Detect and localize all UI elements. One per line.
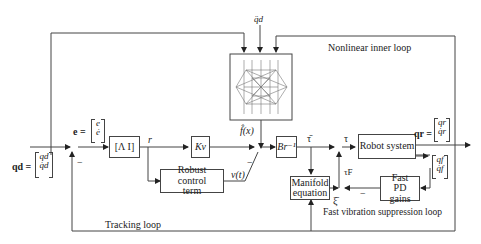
lambda-i-block[interactable]: [Λ I]	[109, 136, 140, 158]
v-t-label: v(t)	[231, 170, 245, 180]
qd-vector: qd q̇d	[35, 152, 53, 178]
fast-vibration-loop-label: Fast vibration suppression loop	[323, 208, 442, 218]
tau-bar-label: τ̄	[307, 134, 311, 144]
e-vector: e ė	[91, 119, 105, 143]
nonlinear-inner-loop-label: Nonlinear inner loop	[328, 43, 411, 53]
tau-label: τ	[344, 134, 348, 144]
minus-sign-tracking: −	[77, 158, 83, 168]
kv-block[interactable]: Kv	[191, 136, 210, 158]
fast-pd-gains-block[interactable]: Fast PD gains	[380, 176, 420, 201]
minus-sign-robust: −	[247, 158, 253, 168]
e-vector-label: e =	[73, 127, 86, 137]
tau-f-label: τF	[344, 168, 353, 177]
xi-bar-label: ξ̄	[333, 196, 337, 206]
qr-vector: qr q̇r	[434, 118, 450, 142]
minus-sign-pd: −	[360, 189, 366, 199]
qdd-desired-label: q̈d	[254, 15, 263, 24]
robot-system-block[interactable]: Robot system	[358, 134, 416, 159]
qd-vector-label: qd =	[12, 162, 31, 172]
f-hat-label: f̂(x)	[240, 126, 254, 136]
manifold-equation-block[interactable]: Manifold equation	[290, 176, 330, 200]
r-signal-label: r	[148, 135, 152, 145]
tracking-loop-label: Tracking loop	[105, 220, 161, 230]
robust-control-block[interactable]: Robust control term	[160, 169, 224, 193]
qf-vector: qf q̇f	[432, 155, 448, 179]
br-inverse-block[interactable]: Br⁻¹	[276, 136, 297, 158]
qr-vector-label: qr =	[414, 129, 432, 139]
